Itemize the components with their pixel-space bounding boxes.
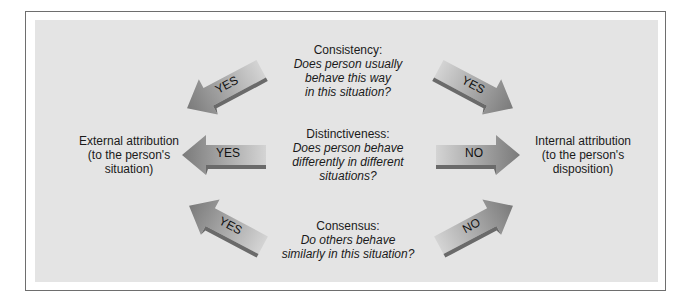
consensus-line: similarly in this situation? (263, 247, 433, 261)
consistency-line: in this situation? (273, 85, 423, 99)
external-attribution-label: External attribution (to the person's si… (64, 134, 194, 176)
internal-attribution-sub1: (to the person's (518, 148, 648, 162)
consensus-heading: Consensus: (263, 219, 433, 233)
arrow-label: NO (452, 146, 496, 160)
distinctiveness-yes-arrow-left: YES (180, 133, 270, 177)
external-attribution-sub2: situation) (64, 162, 194, 176)
external-attribution-sub1: (to the person's (64, 148, 194, 162)
distinctiveness-heading: Distinctiveness: (263, 127, 433, 141)
internal-attribution-label: Internal attribution (to the person's di… (518, 134, 648, 176)
internal-attribution-title: Internal attribution (518, 134, 648, 148)
distinctiveness-line: situations? (263, 169, 433, 183)
distinctiveness-question: Distinctiveness: Does person behave diff… (263, 127, 433, 183)
arrow-label: YES (206, 146, 250, 160)
consensus-line: Do others behave (263, 233, 433, 247)
internal-attribution-sub2: disposition) (518, 162, 648, 176)
external-attribution-title: External attribution (64, 134, 194, 148)
distinctiveness-line: differently in different (263, 155, 433, 169)
consistency-line: Does person usually (273, 57, 423, 71)
consistency-line: behave this way (273, 71, 423, 85)
consensus-question: Consensus: Do others behave similarly in… (263, 219, 433, 261)
distinctiveness-no-arrow-right: NO (432, 133, 522, 177)
consistency-heading: Consistency: (273, 43, 423, 57)
consistency-question: Consistency: Does person usually behave … (273, 43, 423, 99)
distinctiveness-line: Does person behave (263, 141, 433, 155)
